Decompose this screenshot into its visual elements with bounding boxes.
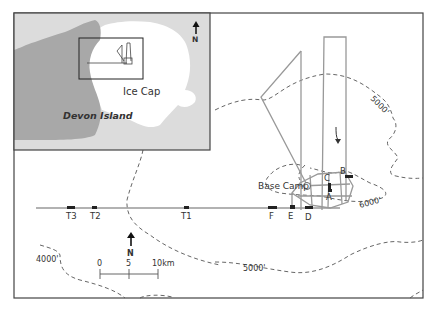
base-camp-label: Base Camp — [258, 181, 309, 191]
site-marker-b — [345, 175, 353, 178]
contour-label-4000: 4000' — [36, 255, 59, 264]
site-marker-t1 — [184, 206, 189, 209]
site-label-e: E — [288, 211, 293, 221]
site-marker-e — [290, 205, 295, 209]
inset-ice-cap-label: Ice Cap — [123, 86, 160, 97]
scale-label-0: 0 — [97, 259, 102, 268]
site-label-f: F — [269, 211, 274, 221]
map-canvas: 5000' 6000' 4000' 5000' Base Camp — [0, 0, 437, 311]
site-label-c: C — [324, 173, 330, 183]
site-label-t3: T3 — [65, 211, 77, 221]
site-label-b: B — [340, 166, 346, 176]
site-marker-d — [305, 206, 313, 209]
inset-north-label: N — [192, 35, 198, 44]
site-label-d: D — [305, 212, 312, 222]
site-marker-f — [268, 206, 277, 209]
site-label-a: A — [326, 192, 332, 202]
site-label-t2: T2 — [89, 211, 101, 221]
inset-devon-island-label: Devon Island — [63, 110, 133, 121]
site-marker-t2 — [92, 206, 97, 209]
site-marker-t3 — [67, 206, 75, 209]
main-north-label: N — [127, 249, 134, 258]
site-label-t1: T1 — [180, 211, 192, 221]
contour-label-5000-lower: 5000' — [243, 264, 266, 273]
inset-map: N Ice Cap Devon Island — [14, 13, 210, 150]
scale-label-5: 5 — [126, 259, 131, 268]
site-marker-c — [328, 183, 331, 189]
scale-label-10km: 10km — [152, 259, 175, 268]
